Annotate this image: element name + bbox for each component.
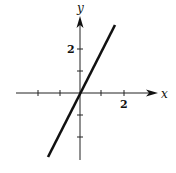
y-tick-label-2: 2 bbox=[67, 43, 75, 56]
plot-area: x y 2 2 bbox=[0, 0, 176, 173]
x-axis-label: x bbox=[161, 87, 168, 101]
y-axis-label: y bbox=[76, 1, 84, 15]
x-tick-label-2: 2 bbox=[120, 98, 128, 111]
